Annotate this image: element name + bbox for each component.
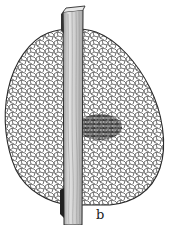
cellular-mass-drawing [0,0,172,225]
dark-patch [78,114,122,140]
figure-label: b [96,208,104,221]
mass-outline [5,29,163,205]
stake [60,6,85,225]
illustration: b [0,0,172,225]
